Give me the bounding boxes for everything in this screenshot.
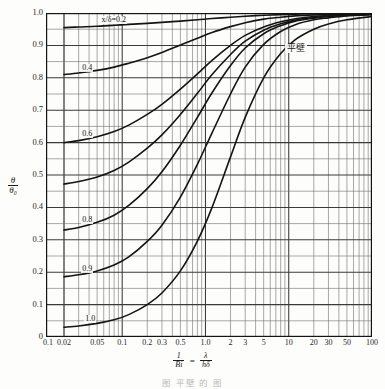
x-tick-label-15: 100: [366, 339, 378, 347]
x-axis-label-equals: =: [187, 356, 198, 366]
x-axis-label-denominator: Bi: [173, 361, 184, 369]
y-tick-label-7: 0.7: [3, 105, 43, 114]
curve-label-2: 0.4: [81, 64, 93, 72]
x-tick-label-2: 0.05: [90, 339, 104, 347]
y-tick-label-1: 0.1: [3, 300, 43, 309]
x-tick-label-5: 0.3: [157, 339, 167, 347]
plane-wall-annotation: 平壁: [285, 44, 307, 53]
y-tick-label-8: 0.8: [3, 73, 43, 82]
x-tick-label-7: 1.0: [200, 339, 210, 347]
y-tick-label-3: 0.3: [3, 235, 43, 244]
x-tick-label-12: 20: [310, 339, 318, 347]
x-tick-label-6: 0.5: [175, 339, 185, 347]
figure-caption: 图 平壁 的 图: [0, 376, 385, 388]
x-axis-label: 1 Bi = λ hδ: [0, 352, 385, 370]
curve-label-6: 0.9: [81, 265, 93, 273]
y-tick-label-9: 0.9: [3, 40, 43, 49]
x-tick-label-9: 3: [243, 339, 247, 347]
figure-container: θ θ₀ 00.10.20.30.40.50.60.70.80.91.0 平壁 …: [0, 0, 385, 389]
y-tick-label-5: 0.5: [3, 170, 43, 179]
y-tick-label-2: 0.2: [3, 267, 43, 276]
x-tick-label-14: 50: [343, 339, 351, 347]
curve-label-1: x/δ=0.2: [101, 16, 128, 24]
x-axis-label-denominator-2: hδ: [200, 361, 212, 369]
y-tick-label-0: 0: [3, 332, 43, 341]
curve-label-7: 1.0: [84, 315, 96, 323]
x-tick-label-0: 0.1: [43, 339, 53, 347]
curve-label-3: 0.6: [81, 130, 93, 138]
x-tick-label-13: 30: [324, 339, 332, 347]
x-tick-label-3: 0.1: [117, 339, 127, 347]
curve-label-5: 0.8: [81, 216, 93, 224]
y-axis-tick-labels: 00.10.20.30.40.50.60.70.80.91.0: [0, 0, 43, 389]
y-tick-label-6: 0.6: [3, 138, 43, 147]
y-tick-label-4: 0.4: [3, 202, 43, 211]
chart-canvas: [46, 13, 372, 337]
plot-area: 平壁: [46, 13, 372, 337]
x-tick-label-8: 2: [229, 339, 233, 347]
y-tick-label-10: 1.0: [3, 8, 43, 17]
x-tick-label-4: 0.2: [142, 339, 152, 347]
x-tick-label-10: 5: [262, 339, 266, 347]
x-tick-label-1: 0.02: [57, 339, 71, 347]
x-tick-label-11: 10: [285, 339, 293, 347]
